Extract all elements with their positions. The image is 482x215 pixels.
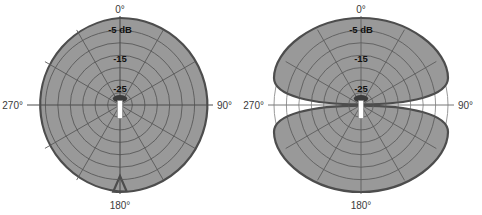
angle-label-90: 90° (458, 100, 473, 111)
polar-plot-bidirectional: -5 dB -15 -25 0° 90° 180° 270° (241, 0, 482, 215)
angle-label-90: 90° (217, 100, 232, 111)
angle-label-0: 0° (115, 4, 125, 15)
radial-label-25db: -25 (354, 83, 368, 94)
radial-label-25db: -25 (113, 83, 127, 94)
radial-label-5db: -5 dB (108, 24, 132, 35)
angle-label-0: 0° (356, 4, 366, 15)
radial-label-15db: -15 (354, 53, 368, 64)
angle-label-180: 180° (110, 200, 131, 211)
radial-label-15db: -15 (113, 53, 127, 64)
figure-container: -5 dB -15 -25 0° 90° 180° 270° (0, 0, 482, 215)
angle-label-180: 180° (351, 200, 372, 211)
angle-label-270: 270° (2, 100, 23, 111)
angle-label-270: 270° (243, 100, 264, 111)
radial-label-5db: -5 dB (349, 24, 373, 35)
polar-plot-omnidirectional: -5 dB -15 -25 0° 90° 180° 270° (0, 0, 241, 215)
